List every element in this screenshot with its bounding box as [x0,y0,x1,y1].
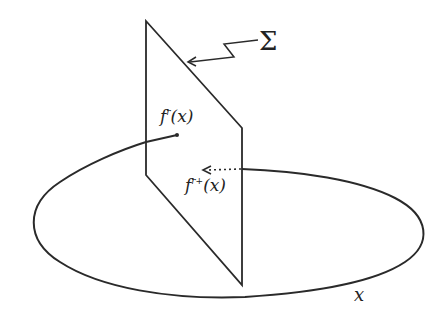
fr-point [175,133,179,137]
plane-sigma [146,21,242,285]
fr-plus-label-arg: (x) [203,175,226,195]
sigma-pointer [190,40,258,62]
fr-label: fr(x) [160,108,193,125]
ellipse-curve [34,142,424,297]
fr-label-arg: (x) [171,106,194,126]
fr-plus-label-sup: r+ [191,176,203,186]
sigma-label: Σ [259,28,277,54]
x-label: x [354,286,364,304]
diagram-canvas [0,0,448,319]
fr-plus-label: fr+(x) [185,177,226,194]
dotted-arrow [207,169,241,170]
curve-to-fr-point [146,135,177,142]
